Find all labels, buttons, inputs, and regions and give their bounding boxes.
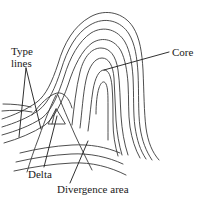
label-type-lines-line1: Type xyxy=(11,45,33,57)
label-type-lines-line2: lines xyxy=(11,57,32,69)
label-core: Core xyxy=(172,46,194,58)
fingerprint-diagram-canvas: Type lines Core Delta Divergence area xyxy=(0,0,198,198)
fingerprint-diagram-figure: Type lines Core Delta Divergence area xyxy=(0,0,198,198)
label-delta: Delta xyxy=(28,168,52,180)
label-divergence-area: Divergence area xyxy=(57,183,129,195)
